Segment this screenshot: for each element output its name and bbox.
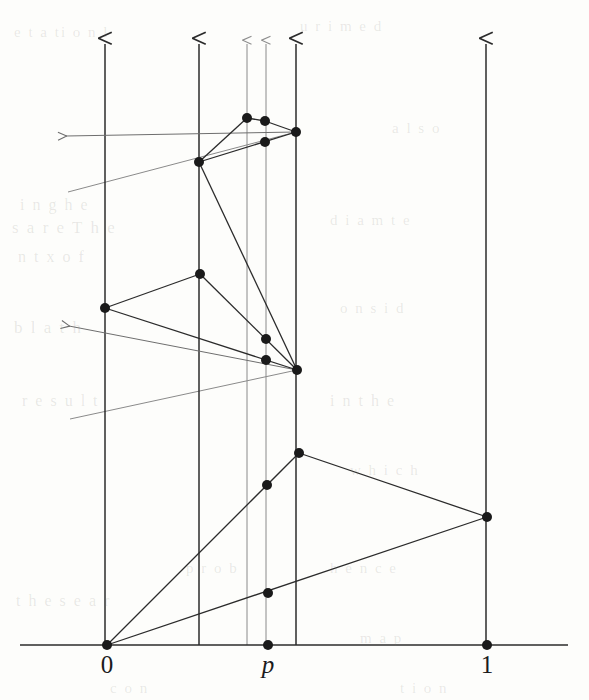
diagram-node (482, 640, 492, 650)
stray-guide-lines (68, 132, 297, 419)
segment-edge (199, 162, 297, 370)
diagram-node (260, 116, 270, 126)
diagram-node (100, 303, 110, 313)
axis-tick-label-0: 0 (101, 652, 114, 677)
guide-line (70, 370, 297, 419)
diagram-node (242, 113, 252, 123)
diagram-node (262, 480, 272, 490)
diagram-canvas (0, 0, 589, 700)
diagram-node (292, 365, 302, 375)
left-pointing-ray (66, 132, 296, 136)
segment-edge (105, 274, 200, 308)
diagram-node (482, 512, 492, 522)
left-rays-group (66, 132, 297, 370)
segment-edge (200, 274, 297, 370)
axis-tick-label-1: 1 (481, 652, 494, 677)
diagram-node (263, 640, 273, 650)
diagram-node (195, 269, 205, 279)
diagram-node (261, 355, 271, 365)
diagram-node (261, 334, 271, 344)
axis-tick-label-p: p (262, 652, 275, 677)
diagram-node (102, 640, 112, 650)
segment-edge (299, 453, 487, 517)
diagram-node (260, 137, 270, 147)
diagram-node (291, 127, 301, 137)
segment-edge (199, 118, 247, 162)
diagram-node (294, 448, 304, 458)
diagram-node (263, 588, 273, 598)
diagram-node (194, 157, 204, 167)
figure-container: e t a ti o n lu r i m e di n g h es a r … (0, 0, 589, 700)
segment-edge (107, 517, 487, 645)
